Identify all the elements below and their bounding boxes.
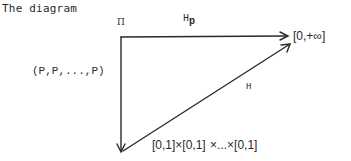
diagram-arrows	[0, 0, 351, 161]
horizontal-arrow-line	[121, 36, 287, 37]
diagonal-arrow-line	[123, 44, 290, 151]
